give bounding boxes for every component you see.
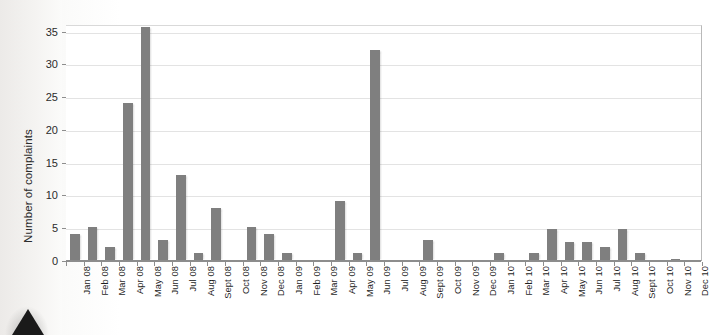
x-tick-label-text: Jun 10 xyxy=(594,266,604,295)
y-axis-title: Number of complaints xyxy=(22,0,34,96)
x-tick-label-text: Dec 10 xyxy=(700,266,710,296)
bar-slot xyxy=(335,26,345,260)
bar-slot xyxy=(282,26,292,260)
x-tick-label-text: Apr 08 xyxy=(135,266,145,294)
bar xyxy=(123,103,133,260)
bar xyxy=(158,240,168,260)
x-tick-label-text: Nov 10 xyxy=(683,266,693,296)
bar xyxy=(282,253,292,260)
x-tick-label-text: Oct 08 xyxy=(241,266,251,294)
triangle-marker-icon xyxy=(12,309,44,335)
bar xyxy=(671,259,681,260)
x-tick-label-text: Jul 10 xyxy=(612,266,622,291)
bar-slot xyxy=(88,26,98,260)
x-tick-label: Feb 10 xyxy=(521,266,531,296)
x-tick-label: Jul 10 xyxy=(609,266,619,291)
y-tick-label-30: 30 xyxy=(32,59,58,69)
x-tick-label: May 10 xyxy=(574,266,584,297)
bar-slot xyxy=(476,26,486,260)
x-tick-label: Feb 08 xyxy=(97,266,107,296)
bar xyxy=(70,234,80,260)
x-tick-label-text: Aug 09 xyxy=(418,266,428,296)
bar-slot xyxy=(105,26,115,260)
x-tick-label-text: Sept 09 xyxy=(435,266,445,299)
x-tick-label: Oct 09 xyxy=(450,266,460,294)
bar-slot xyxy=(565,26,575,260)
x-tick-label: Aug 08 xyxy=(203,266,213,296)
x-tick-label-text: Sept 10 xyxy=(647,266,657,299)
x-tick-label: Jun 08 xyxy=(167,266,177,295)
x-tick-label-text: May 08 xyxy=(153,266,163,297)
x-tick-label-text: Mar 09 xyxy=(329,266,339,296)
x-tick-label-text: Dec 08 xyxy=(276,266,286,296)
x-tick-label-text: Jan 10 xyxy=(506,266,516,295)
x-tick-label-text: May 10 xyxy=(577,266,587,297)
x-tick-label: Nov 10 xyxy=(680,266,690,296)
x-tick-label-text: Aug 08 xyxy=(206,266,216,296)
x-tick-label: Feb 09 xyxy=(309,266,319,296)
bar-slot xyxy=(688,26,698,260)
chart-figure: Number of complaints 05101520253035 Jan … xyxy=(0,0,725,335)
bar-slot xyxy=(264,26,274,260)
x-tick-label-text: Jul 08 xyxy=(188,266,198,291)
bar-slot xyxy=(141,26,151,260)
bar-slot xyxy=(194,26,204,260)
x-tick-label-text: Mar 10 xyxy=(541,266,551,296)
bar-slot xyxy=(300,26,310,260)
x-tick-label: Jul 08 xyxy=(185,266,195,291)
bar xyxy=(264,234,274,260)
x-tick-label: Oct 10 xyxy=(662,266,672,294)
x-tick-label: Dec 08 xyxy=(273,266,283,296)
x-tick-label: Sept 10 xyxy=(644,266,654,299)
x-tick-label: Jan 08 xyxy=(79,266,89,295)
bar xyxy=(635,253,645,260)
bar xyxy=(618,229,628,260)
x-tick-label: Nov 09 xyxy=(468,266,478,296)
x-tick-label: Oct 08 xyxy=(238,266,248,294)
x-tick-label: Mar 10 xyxy=(538,266,548,296)
x-tick-label: Jan 10 xyxy=(503,266,513,295)
bar xyxy=(211,208,221,260)
x-tick-label-text: Oct 09 xyxy=(453,266,463,294)
bar-slot xyxy=(671,26,681,260)
x-tick-label: Aug 10 xyxy=(627,266,637,296)
x-tick-label: Sept 08 xyxy=(220,266,230,299)
bar xyxy=(88,227,98,260)
bar-slot xyxy=(459,26,469,260)
bar-slot xyxy=(317,26,327,260)
bar xyxy=(547,229,557,260)
bar-slot xyxy=(229,26,239,260)
bar-series xyxy=(66,26,701,260)
x-tick-label: May 09 xyxy=(362,266,372,297)
x-tick-label: Jul 09 xyxy=(397,266,407,291)
bar xyxy=(600,247,610,260)
x-tick-label-text: Nov 08 xyxy=(259,266,269,296)
bar xyxy=(529,253,539,260)
x-tick-label: Jan 09 xyxy=(291,266,301,295)
x-tick-label: Apr 10 xyxy=(556,266,566,294)
x-axis-labels: Jan 08Feb 08Mar 08Apr 08May 08Jun 08Jul … xyxy=(66,266,702,326)
x-tick-label: Aug 09 xyxy=(415,266,425,296)
x-tick-label: Apr 08 xyxy=(132,266,142,294)
bar xyxy=(423,240,433,260)
y-axis-title-text: Number of complaints xyxy=(22,96,34,276)
bar-slot xyxy=(635,26,645,260)
bar-slot xyxy=(158,26,168,260)
bar-slot xyxy=(353,26,363,260)
bar-slot xyxy=(247,26,257,260)
x-tick-label-text: Jun 08 xyxy=(170,266,180,295)
bar xyxy=(353,253,363,260)
x-tick-label: Mar 09 xyxy=(326,266,336,296)
bar-slot xyxy=(653,26,663,260)
x-tick-label: Jun 10 xyxy=(591,266,601,295)
x-tick-label-text: Jan 09 xyxy=(294,266,304,295)
bar-slot xyxy=(529,26,539,260)
x-tick-label-text: Nov 09 xyxy=(471,266,481,296)
x-tick-label: Apr 09 xyxy=(344,266,354,294)
bar-slot xyxy=(494,26,504,260)
x-tick-label: Mar 08 xyxy=(114,266,124,296)
bar-slot xyxy=(512,26,522,260)
bar-slot xyxy=(423,26,433,260)
x-tick-label: Dec 10 xyxy=(697,266,707,296)
bar xyxy=(565,242,575,260)
